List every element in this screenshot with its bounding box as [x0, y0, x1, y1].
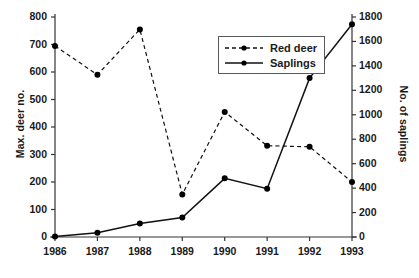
legend-item-red-deer: Red deer [224, 40, 317, 55]
data-point-red-deer-1992 [307, 144, 313, 150]
data-point-red-deer-1987 [94, 72, 100, 78]
legend-label-saplings: Saplings [270, 57, 316, 69]
legend-swatch-dashed-line-icon [224, 42, 264, 54]
data-point-red-deer-1988 [137, 26, 143, 32]
legend-item-saplings: Saplings [224, 55, 317, 70]
chart-legend: Red deer Saplings [218, 36, 325, 74]
data-point-saplings-1988 [137, 221, 143, 227]
data-point-red-deer-1990 [222, 109, 228, 115]
data-point-red-deer-1989 [179, 191, 185, 197]
data-point-saplings-1993 [349, 21, 355, 27]
data-point-saplings-1991 [264, 186, 270, 192]
data-point-saplings-1989 [179, 214, 185, 220]
legend-label-red-deer: Red deer [270, 42, 317, 54]
plot-area [0, 0, 419, 278]
data-point-saplings-1986 [52, 233, 58, 239]
data-point-saplings-1987 [94, 230, 100, 236]
legend-swatch-solid-line-icon [224, 57, 264, 69]
data-point-saplings-1990 [222, 175, 228, 181]
data-point-saplings-1992 [307, 75, 313, 81]
data-point-red-deer-1991 [264, 143, 270, 149]
data-point-red-deer-1993 [349, 179, 355, 185]
chart-figure: Max. deer no. No. of saplings 0100200300… [0, 0, 419, 278]
data-point-red-deer-1986 [52, 43, 58, 49]
